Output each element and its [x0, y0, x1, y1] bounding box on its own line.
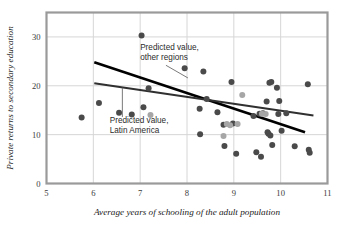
x-tick-label: 5	[44, 188, 48, 198]
y-tick-label: 20	[32, 81, 41, 91]
data-point-other-regions	[283, 110, 289, 116]
data-point-other-regions	[221, 143, 227, 149]
x-tick-label: 11	[323, 188, 331, 198]
data-point-other-regions	[96, 100, 102, 106]
data-point-other-regions	[182, 65, 188, 71]
annot-other-regions-text-line: other regions	[140, 53, 188, 62]
data-point-other-regions	[197, 131, 203, 137]
data-point-other-regions	[197, 106, 203, 112]
data-point-other-regions	[116, 110, 122, 116]
data-point-latin-america	[263, 111, 269, 117]
data-point-other-regions	[251, 113, 257, 119]
data-point-latin-america	[221, 133, 227, 139]
data-point-other-regions	[279, 128, 285, 134]
data-point-other-regions	[139, 32, 145, 38]
x-tick-label: 10	[276, 188, 285, 198]
y-tick-label: 30	[32, 32, 41, 42]
annot-latin-america-text-line: Predicted value,	[110, 116, 169, 125]
data-point-other-regions	[267, 133, 273, 139]
data-point-other-regions	[233, 151, 239, 157]
scatter-chart: Predicted value,other regionsPredicted v…	[0, 0, 342, 225]
annot-other-regions-text-line: Predicted value,	[140, 43, 199, 52]
y-axis-title: Private returns to secondary education	[5, 26, 15, 171]
data-point-other-regions	[268, 79, 274, 85]
chart-canvas: Predicted value,other regionsPredicted v…	[0, 0, 342, 225]
data-point-other-regions	[269, 142, 275, 148]
data-point-latin-america	[227, 122, 233, 128]
data-point-other-regions	[200, 69, 206, 75]
data-point-other-regions	[274, 85, 280, 91]
data-point-other-regions	[307, 150, 313, 156]
data-point-other-regions	[276, 98, 282, 104]
data-point-other-regions	[275, 111, 281, 117]
data-point-latin-america	[235, 121, 241, 127]
data-point-other-regions	[258, 154, 264, 160]
x-axis-title: Average years of schooling of the adult …	[93, 207, 280, 217]
x-tick-label: 9	[232, 188, 236, 198]
data-point-other-regions	[264, 98, 270, 104]
data-point-other-regions	[140, 104, 146, 110]
x-tick-label: 7	[138, 188, 143, 198]
y-tick-label: 10	[32, 130, 41, 140]
y-tick-label: 0	[36, 179, 40, 189]
data-point-other-regions	[253, 149, 259, 155]
data-point-other-regions	[79, 115, 85, 121]
data-point-latin-america	[239, 92, 245, 98]
x-tick-label: 6	[91, 188, 96, 198]
x-tick-label: 8	[185, 188, 189, 198]
data-point-other-regions	[292, 143, 298, 149]
annot-latin-america-text-line: Latin America	[110, 126, 160, 135]
data-point-other-regions	[228, 79, 234, 85]
data-point-other-regions	[214, 109, 220, 115]
data-point-other-regions	[204, 96, 210, 102]
data-point-other-regions	[305, 81, 311, 87]
data-point-other-regions	[146, 85, 152, 91]
